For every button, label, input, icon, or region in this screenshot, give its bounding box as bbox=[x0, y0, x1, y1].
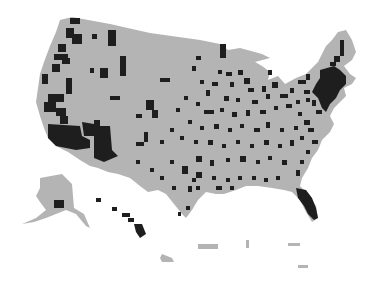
territories bbox=[160, 240, 308, 268]
alaska-inset bbox=[22, 174, 90, 228]
us-county-map bbox=[0, 0, 379, 297]
alaska-highlight bbox=[54, 200, 64, 208]
contiguous-us bbox=[36, 17, 356, 222]
hawaii-inset bbox=[96, 198, 146, 238]
